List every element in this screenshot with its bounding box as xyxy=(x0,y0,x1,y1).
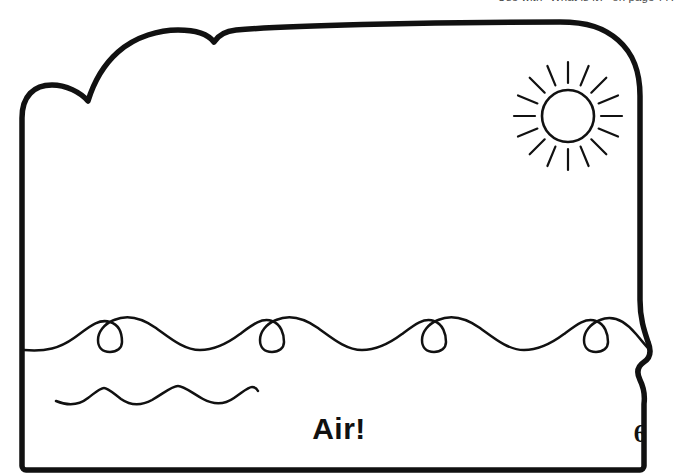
ocean-wave-main-path xyxy=(24,317,648,352)
ocean-wave-small-path xyxy=(56,386,258,404)
card-outline-path xyxy=(22,22,650,470)
ocean-wave-small xyxy=(56,386,258,404)
artwork-illustration xyxy=(0,0,678,476)
ocean-wave-main xyxy=(24,317,648,352)
sun-disc xyxy=(542,90,594,142)
worksheet-page: Use with "What is it?" on page 77. xyxy=(0,0,678,476)
sun-rays xyxy=(514,62,622,170)
card-outline xyxy=(22,22,650,470)
page-number: 6 xyxy=(628,420,652,448)
sun xyxy=(514,62,622,170)
page-caption: Air! xyxy=(0,412,678,446)
